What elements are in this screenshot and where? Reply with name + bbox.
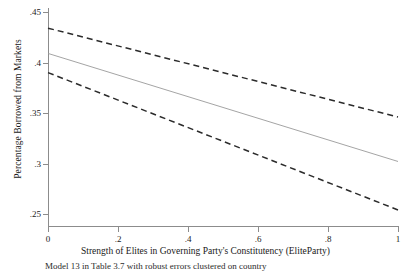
x-tick-mark [398, 227, 399, 232]
y-axis-line [48, 8, 49, 227]
y-tick-label: .45 [0, 7, 41, 17]
chart-figure: Percentage Borrowed from Markets .25.3.3… [0, 0, 411, 272]
x-axis-title: Strength of Elites in Governing Party's … [0, 246, 411, 256]
y-tick-label: .35 [0, 108, 41, 118]
x-tick-label: 1 [378, 234, 411, 244]
x-tick-label: .4 [168, 234, 208, 244]
y-tick-label: .3 [0, 159, 41, 169]
x-tick-mark [188, 227, 189, 232]
x-axis-line [48, 226, 399, 227]
x-tick-label: .6 [238, 234, 278, 244]
x-tick-mark [118, 227, 119, 232]
confidence-bound-line [48, 73, 398, 210]
x-tick-label: .8 [308, 234, 348, 244]
y-tick-mark [43, 113, 48, 114]
fit-line [48, 53, 398, 161]
figure-caption: Model 13 in Table 3.7 with robust errors… [45, 261, 411, 271]
x-tick-label: .2 [98, 234, 138, 244]
x-tick-mark [328, 227, 329, 232]
x-tick-mark [48, 227, 49, 232]
x-tick-mark [258, 227, 259, 232]
y-tick-label: .25 [0, 209, 41, 219]
x-tick-label: 0 [28, 234, 68, 244]
y-tick-mark [43, 214, 48, 215]
y-tick-mark [43, 164, 48, 165]
y-tick-label: .4 [0, 58, 41, 68]
y-tick-mark [43, 63, 48, 64]
y-tick-mark [43, 12, 48, 13]
confidence-bound-line [48, 28, 398, 117]
chart-lines-layer [0, 0, 411, 272]
